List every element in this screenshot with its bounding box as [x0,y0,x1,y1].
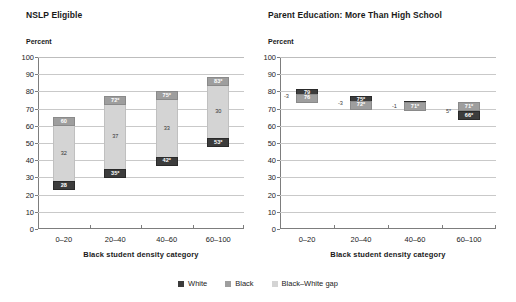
panel-nslp-eligible: NSLP Eligible Percent Black student dens… [0,0,258,275]
legend-swatch-white [178,281,184,287]
marker-black[interactable]: 76 [296,94,318,103]
y-axis-tick-label: 30 [26,173,34,182]
legend-item-black[interactable]: Black [225,279,253,288]
gridline [280,212,496,213]
x-axis-tick-label: 0–20 [299,235,316,244]
y-axis-tick-mark [277,57,280,58]
y-axis-tick-mark [277,212,280,213]
y-axis-tick-label: 50 [268,139,276,148]
marker-black[interactable]: 72* [350,101,372,110]
y-axis-tick-label: 100 [263,53,276,62]
gridline [280,177,496,178]
y-axis-tick-label: 100 [21,53,34,62]
gap-annotation: -3 [338,100,343,106]
y-axis-unit-label: Percent [268,38,294,45]
marker-black-label: 76 [304,95,310,101]
bar-segment-white[interactable]: 42* [156,157,178,166]
bar-segment-gap-label: 32 [61,151,67,157]
gridline [280,195,496,196]
x-axis-tick-mark [193,225,194,229]
bar-segment-black-label: 72* [111,98,119,104]
gap-annotation: 5* [446,108,451,114]
gap-annotation: -1 [392,103,397,109]
y-axis-tick-mark [35,229,38,230]
y-axis-tick-label: 90 [26,70,34,79]
x-axis-tick-label: 20–40 [351,235,372,244]
marker-white[interactable]: 66* [458,111,480,120]
legend-swatch-black [225,281,231,287]
bar-segment-gap[interactable]: 33 [156,100,178,157]
bar-segment-black-label: 83* [214,79,222,85]
gridline [280,143,496,144]
y-axis-tick-mark [277,229,280,230]
y-axis-tick-mark [277,195,280,196]
x-axis-tick-label: 60–100 [456,235,481,244]
y-axis-tick-mark [277,160,280,161]
bar-segment-gap-label: 37 [112,134,118,140]
y-axis-tick-label: 50 [26,139,34,148]
y-axis-tick-label: 20 [268,190,276,199]
y-axis-tick-mark [35,160,38,161]
y-axis-tick-mark [277,126,280,127]
gap-annotation: -3 [284,93,289,99]
bar-segment-gap[interactable]: 37 [104,105,126,169]
bar-segment-black[interactable]: 60 [53,117,75,126]
y-axis-tick-label: 70 [26,104,34,113]
marker-black[interactable]: 71* [404,102,426,111]
y-axis-tick-mark [277,91,280,92]
y-axis-tick-label: 80 [268,87,276,96]
gridline [38,57,244,58]
y-axis-tick-mark [35,212,38,213]
y-axis-tick-label: 40 [268,156,276,165]
y-axis-tick-mark [35,126,38,127]
bar-segment-black[interactable]: 72* [104,96,126,105]
marker-black[interactable]: 71* [458,102,480,111]
legend-item-white[interactable]: White [178,279,207,288]
y-axis-tick-label: 0 [30,225,34,234]
y-axis-tick-mark [35,177,38,178]
y-axis-tick-label: 60 [26,121,34,130]
legend-swatch-gap [272,281,278,287]
y-axis-tick-label: 90 [268,70,276,79]
legend-item-gap[interactable]: Black–White gap [272,279,338,288]
x-axis-tick-label: 60–100 [206,235,231,244]
legend-label-black: Black [235,279,253,288]
y-axis-tick-label: 60 [268,121,276,130]
x-axis-tick-mark [442,225,443,229]
y-axis-tick-mark [277,143,280,144]
x-axis-tick-mark [243,225,244,229]
y-axis-tick-mark [277,74,280,75]
marker-white-label: 66* [465,113,473,119]
x-axis-tick-mark [334,225,335,229]
bar-segment-white-label: 42* [163,158,171,164]
bar-segment-white[interactable]: 53* [207,138,229,147]
y-axis-tick-mark [35,74,38,75]
legend-label-gap: Black–White gap [282,279,338,288]
panel-title: Parent Education: More Than High School [268,10,442,20]
y-axis-tick-label: 80 [26,87,34,96]
gridline [280,57,496,58]
bar-segment-gap[interactable]: 30 [207,86,229,138]
y-axis-unit-label: Percent [26,38,52,45]
marker-black-label: 71* [465,104,473,110]
bar-segment-white[interactable]: 35* [104,169,126,178]
x-axis-tick-mark [495,225,496,229]
x-axis-tick-mark [90,225,91,229]
y-axis-tick-mark [35,109,38,110]
gridline [280,74,496,75]
x-axis-tick-label: 20–40 [105,235,126,244]
bar-segment-gap[interactable]: 32 [53,126,75,181]
plot-area: Black student density category 100908070… [280,57,496,229]
x-axis-tick-mark [141,225,142,229]
gridline [280,126,496,127]
bar-segment-black[interactable]: 75* [156,91,178,100]
y-axis-tick-mark [277,109,280,110]
marker-black-label: 72* [357,102,365,108]
gridline [38,74,244,75]
y-axis-tick-label: 10 [268,207,276,216]
chart-page: NSLP Eligible Percent Black student dens… [0,0,516,302]
chart-legend: WhiteBlackBlack–White gap [0,279,516,288]
bar-segment-black[interactable]: 83* [207,77,229,86]
bar-segment-white[interactable]: 28 [53,181,75,190]
y-axis-tick-label: 0 [272,225,276,234]
